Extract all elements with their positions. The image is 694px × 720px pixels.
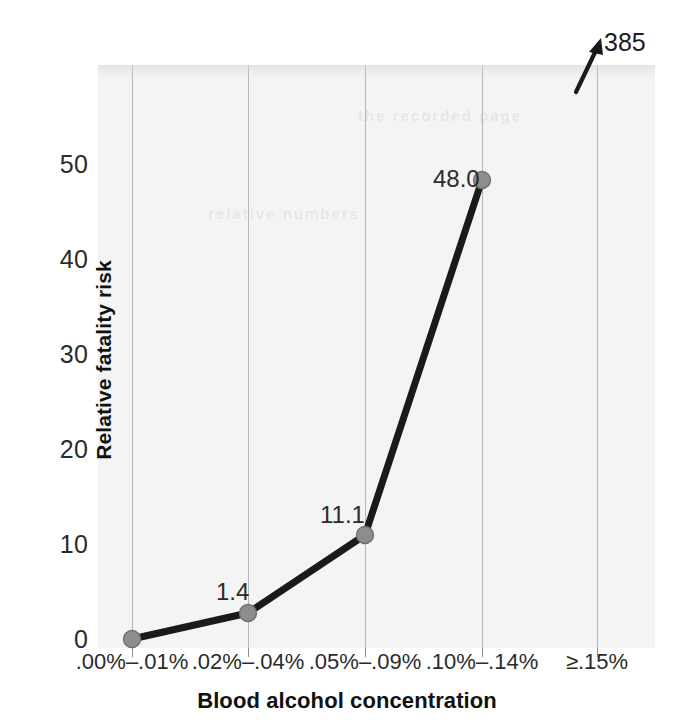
- scan-artifact-text: the recorded page: [358, 107, 522, 124]
- y-axis-title: Relative fatality risk: [92, 260, 116, 459]
- y-tick-label-10: 10: [0, 532, 88, 557]
- gridline-category-1: [132, 65, 133, 648]
- gridline-category-5: [597, 65, 598, 648]
- y-tick-label-20: 20: [0, 437, 88, 462]
- fatality-risk-chart-figure: the recorded page relative numbers Relat…: [0, 0, 694, 720]
- x-axis-title: Blood alcohol concentration: [0, 688, 694, 714]
- scan-artifact-text: relative numbers: [208, 205, 360, 222]
- gridline-category-2: [248, 65, 249, 648]
- gridline-category-4: [482, 65, 483, 648]
- y-tick-label-30: 30: [0, 342, 88, 367]
- data-label-1-4: 1.4: [216, 580, 249, 604]
- data-label-385-offscale: 385: [604, 30, 646, 55]
- data-label-11-1: 11.1: [320, 503, 365, 527]
- gridline-category-3: [365, 65, 366, 648]
- plot-area: the recorded page relative numbers: [98, 65, 655, 648]
- y-tick-label-40: 40: [0, 247, 88, 272]
- y-tick-label-0: 0: [0, 627, 88, 652]
- x-tick-label-5: ≥.15%: [535, 651, 659, 673]
- data-label-48-0: 48.0: [433, 167, 480, 191]
- y-tick-label-50: 50: [0, 152, 88, 177]
